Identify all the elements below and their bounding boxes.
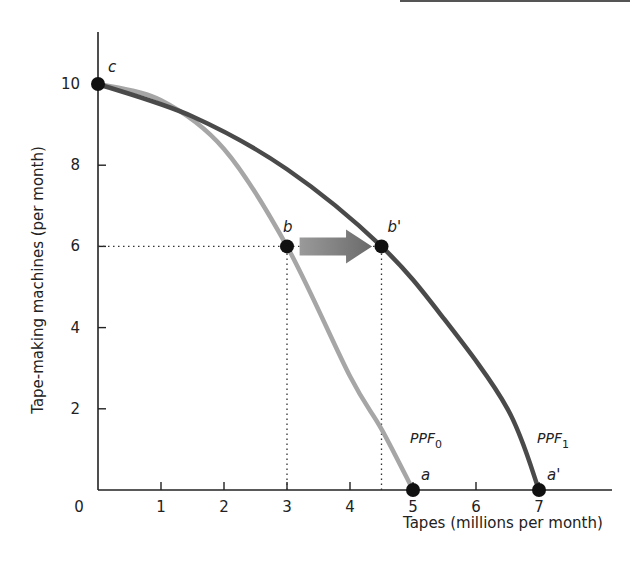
labeled-points: cbb'aa': [91, 58, 560, 497]
x-tick-label: 4: [345, 498, 355, 516]
axes: [98, 32, 612, 490]
x-tick-label: 1: [156, 498, 166, 516]
y-tick-label: 8: [70, 156, 80, 174]
point-label: b': [388, 218, 402, 236]
point-a: [406, 483, 420, 497]
dotted-guides: [98, 246, 382, 490]
point-label: a': [547, 466, 560, 484]
curve-labels: PPF0PPF1: [410, 430, 569, 451]
curve-label-ppf1: PPF1: [537, 430, 569, 451]
shift-arrow: [300, 229, 372, 263]
point-aprime: [532, 483, 546, 497]
shift-arrow-icon: [300, 229, 372, 263]
x-ticks: 01234567: [74, 482, 544, 516]
y-tick-label: 2: [70, 400, 80, 418]
ppf-curves: [98, 84, 539, 490]
x-tick-label: 2: [219, 498, 229, 516]
point-bprime: [375, 239, 389, 253]
point-c: [91, 77, 105, 91]
x-tick-label: 0: [74, 498, 84, 516]
y-axis-title: Tape-making machines (per month): [29, 146, 47, 415]
point-label: a: [421, 466, 430, 484]
curve-label-ppf0: PPF0: [410, 430, 442, 451]
curve-ppf1: [98, 84, 539, 490]
point-label: b: [283, 218, 293, 236]
y-tick-label: 4: [70, 319, 80, 337]
ppf-chart: 01234567 246810 cbb'aa' PPF0PPF1 Tapes (…: [0, 0, 630, 561]
point-b: [280, 239, 294, 253]
y-tick-label: 10: [61, 75, 80, 93]
y-tick-label: 6: [70, 237, 80, 255]
x-axis-title: Tapes (millions per month): [402, 514, 603, 532]
x-tick-label: 3: [282, 498, 292, 516]
point-label: c: [108, 58, 117, 76]
curve-ppf0: [98, 84, 413, 490]
